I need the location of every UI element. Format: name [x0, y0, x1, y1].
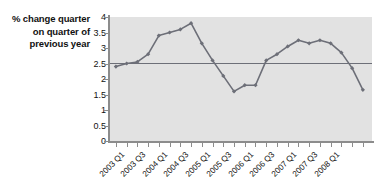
y-axis-tick-label: 2 — [84, 74, 106, 84]
y-axis-tick-mark — [104, 126, 108, 127]
x-axis-tick-mark — [298, 143, 299, 147]
y-axis-tick-label: 2.5 — [84, 59, 106, 69]
y-axis-tick-mark — [104, 141, 108, 142]
x-axis-tick-mark — [341, 143, 342, 147]
plot-svg — [110, 17, 372, 141]
y-axis-tick-labels: 00.511.522.533.54 — [84, 0, 106, 191]
x-axis-tick-mark — [137, 143, 138, 147]
x-axis-tick-mark — [191, 143, 192, 147]
x-axis-tick-mark — [363, 143, 364, 147]
x-axis-tick-mark — [331, 143, 332, 147]
chart-figure: % change quarter on quarter of previous … — [0, 0, 383, 191]
x-axis-tick-mark — [255, 143, 256, 147]
y-axis-tick-mark — [104, 33, 108, 34]
x-axis-tick-mark — [148, 143, 149, 147]
y-axis-tick-label: 3.5 — [84, 28, 106, 38]
data-point-marker — [307, 41, 311, 45]
y-axis-tick-mark — [104, 79, 108, 80]
x-axis-tick-mark — [116, 143, 117, 147]
x-axis-tick-mark — [170, 143, 171, 147]
x-axis-tick-mark — [223, 143, 224, 147]
x-axis-tick-mark — [202, 143, 203, 147]
y-axis-tick-label: 1 — [84, 105, 106, 115]
y-axis-tick-mark — [104, 17, 108, 18]
y-axis-label-line-2: on quarter of — [2, 26, 90, 39]
y-axis-tick-label: 0.5 — [84, 121, 106, 131]
data-point-marker — [167, 30, 171, 34]
y-axis-tick-label: 0 — [84, 136, 106, 146]
y-axis-label-line-1: % change quarter — [2, 13, 90, 26]
y-axis-label: % change quarter on quarter of previous … — [2, 13, 90, 51]
x-axis-tick-mark — [309, 143, 310, 147]
y-axis-tick-label: 3 — [84, 43, 106, 53]
data-series-markers — [114, 21, 365, 93]
x-axis-tick-mark — [180, 143, 181, 147]
y-axis-tick-label: 1.5 — [84, 90, 106, 100]
x-axis-tick-mark — [213, 143, 214, 147]
x-axis-tick-mark — [159, 143, 160, 147]
x-axis-tick-mark — [288, 143, 289, 147]
y-axis-label-line-3: previous year — [2, 38, 90, 51]
x-axis-tick-mark — [127, 143, 128, 147]
data-point-marker — [125, 61, 129, 65]
x-axis-tick-mark — [266, 143, 267, 147]
x-axis-tick-mark — [320, 143, 321, 147]
y-axis-tick-mark — [104, 48, 108, 49]
x-axis-tick-mark — [245, 143, 246, 147]
y-axis-tick-mark — [104, 64, 108, 65]
data-point-marker — [114, 65, 118, 69]
data-point-marker — [318, 38, 322, 42]
data-series-line — [116, 23, 363, 91]
x-axis-tick-mark — [277, 143, 278, 147]
plot-area — [110, 17, 372, 141]
x-axis-tick-mark — [234, 143, 235, 147]
y-axis-tick-mark — [104, 95, 108, 96]
y-axis-tick-label: 4 — [84, 12, 106, 22]
x-axis-tick-mark — [352, 143, 353, 147]
y-axis-tick-mark — [104, 110, 108, 111]
